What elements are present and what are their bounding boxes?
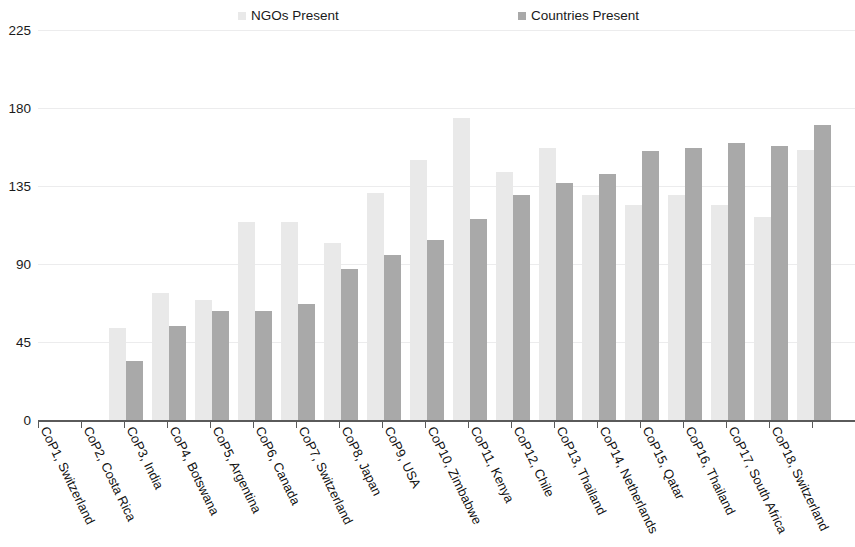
bar-ngos-present (625, 205, 642, 420)
bar-countries-present (126, 361, 143, 420)
x-axis-category-label: CoP9, USA (381, 424, 424, 490)
bar-group (711, 30, 745, 420)
bar-countries-present (513, 195, 530, 420)
y-axis-tick-label: 135 (0, 179, 31, 194)
bar-ngos-present (453, 118, 470, 420)
bar-group (539, 30, 573, 420)
x-axis-category-label: CoP8, Japan (338, 424, 384, 498)
bar-group (281, 30, 315, 420)
bar-group (496, 30, 530, 420)
x-axis-category-label: CoP15, Qatar (639, 424, 687, 502)
bar-countries-present (169, 326, 186, 420)
bar-countries-present (599, 174, 616, 420)
bar-group (668, 30, 702, 420)
bar-group (754, 30, 788, 420)
bar-ngos-present (324, 243, 341, 420)
bar-ngos-present (195, 300, 212, 420)
bar-ngos-present (152, 293, 169, 420)
bar-countries-present (685, 148, 702, 420)
bar-countries-present (470, 219, 487, 420)
bar-countries-present (642, 151, 659, 420)
x-axis-category-label: CoP12, Chile (510, 424, 557, 499)
bar-ngos-present (711, 205, 728, 420)
legend-swatch-ngos-present (238, 12, 246, 20)
bar-ngos-present (410, 160, 427, 420)
bar-ngos-present (797, 150, 814, 420)
bar-ngos-present (539, 148, 556, 420)
bar-chart: NGOs Present Countries Present 045901351… (0, 0, 855, 547)
y-axis-tick-label: 90 (0, 257, 31, 272)
x-axis-category-label: CoP11, Kenya (467, 424, 517, 505)
bar-group (453, 30, 487, 420)
bar-group (66, 30, 100, 420)
bar-countries-present (814, 125, 831, 420)
chart-legend: NGOs Present Countries Present (0, 6, 855, 30)
bar-group (195, 30, 229, 420)
x-axis-category-label: CoP3, India (123, 424, 166, 492)
bar-group (410, 30, 444, 420)
legend-swatch-countries-present (518, 12, 526, 20)
x-axis-labels: CoP1, SwitzerlandCoP2, Costa RicaCoP3, I… (0, 424, 855, 547)
bar-countries-present (728, 143, 745, 420)
bar-countries-present (384, 255, 401, 420)
bar-ngos-present (367, 193, 384, 420)
y-axis-tick-label: 45 (0, 335, 31, 350)
bar-ngos-present (109, 328, 126, 420)
x-axis-category-label: CoP6, Canada (252, 424, 303, 507)
bar-countries-present (427, 240, 444, 420)
legend-item-countries-present: Countries Present (518, 8, 639, 23)
bar-countries-present (771, 146, 788, 420)
bar-countries-present (212, 311, 229, 420)
y-axis-tick-label: 180 (0, 101, 31, 116)
bar-countries-present (255, 311, 272, 420)
bar-ngos-present (238, 222, 255, 420)
y-axis-tick-label: 225 (0, 23, 31, 38)
bar-group (797, 30, 831, 420)
bar-ngos-present (668, 195, 685, 420)
plot-area (38, 30, 855, 420)
bar-group (324, 30, 358, 420)
legend-label-countries-present: Countries Present (531, 8, 639, 23)
bar-group (109, 30, 143, 420)
bar-group (152, 30, 186, 420)
legend-item-ngos-present: NGOs Present (238, 8, 339, 23)
bar-group (367, 30, 401, 420)
bar-countries-present (341, 269, 358, 420)
bar-ngos-present (496, 172, 513, 420)
legend-label-ngos-present: NGOs Present (251, 8, 339, 23)
bar-group (238, 30, 272, 420)
bar-countries-present (298, 304, 315, 420)
x-axis-line (38, 420, 855, 422)
bar-ngos-present (281, 222, 298, 420)
bar-group (582, 30, 616, 420)
bar-group (625, 30, 659, 420)
bar-countries-present (556, 183, 573, 420)
bar-ngos-present (582, 195, 599, 420)
bar-ngos-present (754, 217, 771, 420)
